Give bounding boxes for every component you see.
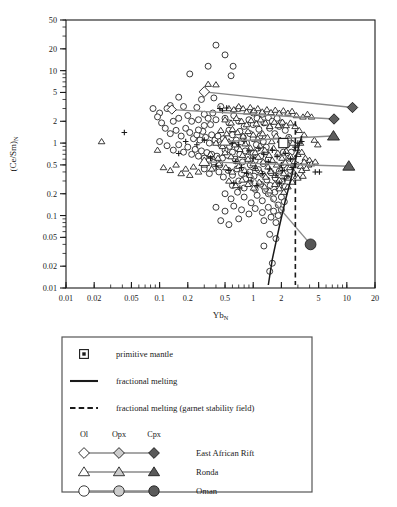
data-point-oman <box>267 231 273 237</box>
data-point-oman <box>195 127 201 133</box>
y-tick-label: 0.1 <box>47 212 57 221</box>
y-tick-label: 10 <box>49 67 57 76</box>
data-point-oman <box>222 52 228 58</box>
data-point-oman <box>271 208 277 214</box>
data-point-oman <box>187 130 193 136</box>
legend-label-oman: Oman <box>196 486 218 496</box>
y-axis-title: (Ce/Sm)N <box>8 136 19 172</box>
data-point-oman <box>181 149 187 155</box>
y-tick-label: 5 <box>53 88 57 97</box>
data-point-oman <box>155 114 161 120</box>
y-tick-label: 50 <box>49 16 57 25</box>
data-point-oman <box>210 110 216 116</box>
data-point-oman <box>176 142 182 148</box>
data-point-oman <box>216 169 222 175</box>
x-tick-label: 0.1 <box>154 294 164 303</box>
data-point-oman <box>231 203 237 209</box>
data-point-oman <box>189 118 195 124</box>
data-point-oman <box>259 198 265 204</box>
data-point-oman <box>167 131 173 137</box>
data-point-oman <box>185 144 191 150</box>
data-point-oman <box>265 204 271 210</box>
legend-label-garnet-stability: fractional melting (garnet stability fie… <box>116 403 255 413</box>
legend-label-primitive-mantle: primitive mantle <box>116 349 173 359</box>
data-point-oman <box>261 243 267 249</box>
data-point-oman <box>195 117 201 123</box>
data-point-oman <box>181 103 187 109</box>
y-tick-label: 0.2 <box>47 190 57 199</box>
legend-marker-oman-ol <box>79 486 89 496</box>
data-point-oman <box>205 63 211 69</box>
legend-primitive-mantle-dot <box>82 352 85 355</box>
data-point-oman <box>252 206 258 212</box>
data-point-oman <box>248 200 254 206</box>
x-tick-label: 5 <box>317 294 321 303</box>
background <box>0 0 397 507</box>
legend-label-ronda: Ronda <box>196 467 219 477</box>
data-point-oman <box>173 127 179 133</box>
data-point-oman <box>162 125 168 131</box>
data-point-oman <box>259 210 265 216</box>
data-point-oman <box>170 118 176 124</box>
data-point-oman <box>201 122 207 128</box>
y-tick-label: 2 <box>53 117 57 126</box>
primitive-mantle-marker <box>279 138 288 147</box>
x-tick-label: 10 <box>343 294 351 303</box>
data-point-oman <box>236 216 242 222</box>
data-point-oman <box>198 96 204 102</box>
data-point-oman <box>176 94 182 100</box>
data-point-oman <box>213 117 219 123</box>
data-point-oman <box>170 147 176 153</box>
data-point-oman <box>157 139 163 145</box>
data-point-oman <box>228 73 234 79</box>
legend-label-fractional-melting: fractional melting <box>116 376 178 386</box>
data-point-oman <box>159 120 165 126</box>
y-tick-label: 0.5 <box>47 161 57 170</box>
data-point-oman <box>185 113 191 119</box>
y-tick-label: 0.02 <box>43 262 57 271</box>
data-point-oman <box>176 115 182 121</box>
data-point-oman <box>194 104 200 110</box>
data-point-oman <box>239 207 245 213</box>
x-tick-label: 20 <box>371 294 379 303</box>
data-point-oman <box>268 214 274 220</box>
data-point-oman <box>222 208 228 214</box>
data-point-oman <box>254 192 260 198</box>
data-point-oman <box>213 204 219 210</box>
data-point-oman <box>222 191 228 197</box>
legend-phase-header-opx: Opx <box>112 430 126 439</box>
data-point-oman <box>275 213 281 219</box>
data-point-oman <box>150 106 156 112</box>
data-point-oman <box>228 196 234 202</box>
data-point-oman <box>273 220 279 226</box>
x-tick-label: 0.02 <box>87 294 101 303</box>
data-point-oman <box>178 133 184 139</box>
data-point-oman <box>218 218 224 224</box>
data-point-oman <box>256 126 262 132</box>
data-point-oman <box>164 143 170 149</box>
data-point-oman <box>261 218 267 224</box>
data-point-oman <box>282 127 288 133</box>
data-point-oman <box>241 194 247 200</box>
data-point-oman <box>213 42 219 48</box>
chart-svg: 0.010.020.050.10.20.512510200.010.020.05… <box>0 0 397 507</box>
data-point-oman <box>211 95 217 101</box>
data-point-oman <box>205 115 211 121</box>
x-tick-label: 1 <box>251 294 255 303</box>
data-point-oman <box>187 71 193 77</box>
figure-root: 0.010.020.050.10.20.512510200.010.020.05… <box>0 0 397 507</box>
data-point-oman <box>203 134 209 140</box>
data-point-oman <box>230 63 236 69</box>
x-tick-label: 2 <box>279 294 283 303</box>
x-tick-label: 0.2 <box>183 294 193 303</box>
y-tick-label: 0.01 <box>43 284 57 293</box>
data-point-oman <box>208 122 214 128</box>
data-point-oman <box>220 174 226 180</box>
legend-phase-header-ol: Ol <box>80 430 89 439</box>
legend-marker-oman-cpx <box>149 486 159 496</box>
legend-phase-header-cpx: Cpx <box>147 430 161 439</box>
y-tick-label: 0.05 <box>43 233 57 242</box>
data-point-oman <box>246 211 252 217</box>
data-point-oman <box>206 140 212 146</box>
y-tick-label: 1 <box>53 139 57 148</box>
